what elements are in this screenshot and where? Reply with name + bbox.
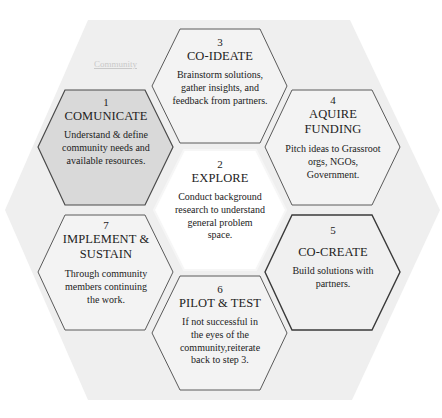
step-title: IMPLEMENT & SUSTAIN (61, 232, 151, 262)
step-5: 5 CO-CREATE Build solutions with partner… (278, 224, 388, 291)
step-1: 1 COMUNICATE Understand & define communi… (50, 96, 162, 167)
step-title: EXPLORE (165, 171, 275, 186)
step-number: 2 (165, 158, 275, 171)
step-6: 6 PILOT & TEST If not successful in the … (165, 283, 275, 367)
step-description: If not successful in the eyes of the com… (177, 316, 263, 367)
step-4: 4 AQUIRE FUNDING Pitch ideas to Grassroo… (278, 94, 388, 181)
step-description: Build solutions with partners. (288, 265, 378, 290)
step-7: 7 IMPLEMENT & SUSTAIN Through community … (50, 219, 162, 306)
step-number: 4 (278, 94, 388, 107)
community-label: Community (94, 59, 137, 69)
step-2: 2 EXPLORE Conduct background research to… (165, 158, 275, 242)
step-description: Conduct background research to understan… (174, 191, 266, 242)
step-number: 6 (165, 283, 275, 296)
step-3: 3 CO-IDEATE Brainstorm solutions, gather… (165, 36, 275, 107)
step-title: PILOT & TEST (165, 296, 275, 311)
step-title: AQUIRE FUNDING (298, 107, 368, 137)
step-description: Understand & define community needs and … (60, 129, 152, 167)
step-title: CO-CREATE (278, 245, 388, 260)
step-description: Pitch ideas to Grassroot orgs, NGOs, Gov… (283, 143, 383, 181)
step-description: Brainstorm solutions, gather insights, a… (172, 69, 268, 107)
step-number: 3 (165, 36, 275, 49)
step-title: CO-IDEATE (165, 49, 275, 64)
step-description: Through community members continuing the… (60, 268, 152, 306)
step-number: 7 (50, 219, 162, 232)
step-number: 5 (278, 224, 388, 237)
step-number: 1 (50, 96, 162, 109)
step-title: COMUNICATE (50, 109, 162, 124)
